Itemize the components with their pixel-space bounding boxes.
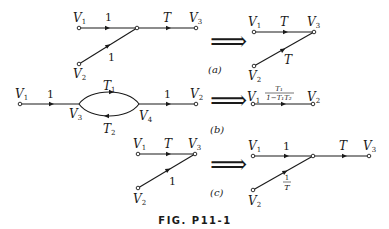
arrow-icon xyxy=(105,26,110,30)
panel-b-left-graph: V1 1 T1 T2 V3 V4 1 V2 xyxy=(15,79,203,137)
gain-label-t2: T2 xyxy=(103,122,115,137)
arrow-icon xyxy=(166,102,171,106)
gain-label: 1 xyxy=(169,175,176,188)
panel-label-a: (a) xyxy=(208,64,222,75)
gain-label: T xyxy=(280,15,289,29)
panel-a-right-graph: V1 T V3 T V2 xyxy=(248,15,320,84)
gain-label: 1 xyxy=(105,11,112,24)
implies-arrow-icon: ⟹ xyxy=(210,85,247,115)
implies-arrow-icon: ⟹ xyxy=(210,26,247,56)
node-junction xyxy=(311,154,315,158)
label-v2: V2 xyxy=(73,67,86,82)
label-v3: V3 xyxy=(189,11,202,26)
label-v1: V1 xyxy=(133,137,146,152)
gain-denominator: 1−T₁T₂ xyxy=(266,94,291,102)
node-v2 xyxy=(77,62,81,66)
node-v2 xyxy=(136,186,140,190)
label-v2: V2 xyxy=(190,87,203,102)
label-v1: V1 xyxy=(248,15,261,30)
node-v1 xyxy=(136,152,140,156)
node-junction xyxy=(135,26,139,30)
panel-c-right-graph: V1 1 T V3 1 T V2 xyxy=(248,139,376,209)
gain-label-t1: T1 xyxy=(103,79,115,94)
arrow-icon xyxy=(283,30,288,34)
label-v1: V1 xyxy=(15,87,28,102)
node-v2 xyxy=(194,102,198,106)
arrow-icon xyxy=(104,114,109,118)
gain-denominator: T xyxy=(284,183,290,192)
node-v3 xyxy=(312,30,316,34)
arrow-icon xyxy=(284,154,289,158)
gain-label: T xyxy=(284,53,293,67)
label-v3: V3 xyxy=(188,137,201,152)
label-v2: V2 xyxy=(133,192,146,207)
node-v1 xyxy=(77,26,81,30)
label-v2: V2 xyxy=(248,194,261,209)
implies-arrow-icon: ⟹ xyxy=(210,149,247,179)
node-v2 xyxy=(252,64,256,68)
node-v3 xyxy=(193,152,197,156)
gain-label: 1 xyxy=(47,88,54,101)
figure-caption: FIG. P11-1 xyxy=(158,215,231,226)
node-v1 xyxy=(18,102,22,106)
gain-label: 1 xyxy=(283,140,290,153)
gain-label: 1 xyxy=(164,88,171,101)
node-v3 xyxy=(367,154,371,158)
node-v3 xyxy=(194,26,198,30)
label-v4: V4 xyxy=(139,109,153,124)
node-v2 xyxy=(251,188,255,192)
gain-label: T xyxy=(339,139,348,153)
gain-label: T xyxy=(163,11,172,25)
panel-label-c: (c) xyxy=(210,187,224,198)
arrow-icon xyxy=(166,26,171,30)
arrow-icon xyxy=(281,102,286,106)
arrow-icon xyxy=(342,154,347,158)
label-v2: V2 xyxy=(248,69,261,84)
gain-numerator: 1 xyxy=(285,174,289,182)
label-v1: V1 xyxy=(247,90,260,105)
label-v3: V3 xyxy=(363,139,376,154)
arrow-icon xyxy=(166,152,171,156)
label-v3: V3 xyxy=(69,107,82,122)
arrow-icon xyxy=(49,102,54,106)
node-v1 xyxy=(251,154,255,158)
label-v1: V1 xyxy=(248,139,261,154)
gain-label: T xyxy=(164,137,173,151)
label-v1: V1 xyxy=(73,11,86,26)
panel-label-b: (b) xyxy=(210,124,224,135)
panel-a-left-graph: V1 1 1 T V3 V2 xyxy=(73,11,202,82)
signal-flow-graph-figure: V1 1 1 T V3 V2 ⟹ (a) V1 T V3 T V2 V1 1 xyxy=(0,0,389,229)
panel-b-right-graph: V1 T₁ 1−T₁T₂ V2 xyxy=(247,85,320,106)
gain-numerator: T₁ xyxy=(275,85,283,93)
gain-label: 1 xyxy=(108,51,115,64)
label-v3: V3 xyxy=(307,15,320,30)
panel-c-left-graph: V1 T V3 1 V2 xyxy=(133,137,201,207)
label-v2: V2 xyxy=(307,90,320,105)
node-v1 xyxy=(252,30,256,34)
